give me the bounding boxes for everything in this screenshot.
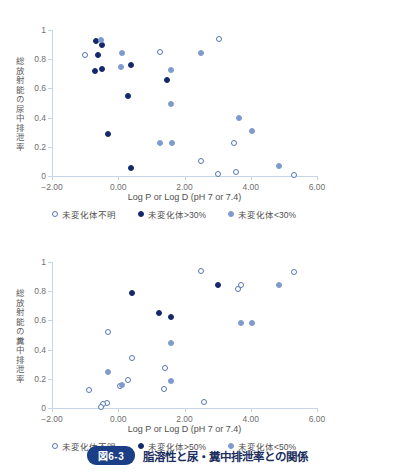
x-tick [118, 408, 119, 412]
data-point [156, 310, 162, 316]
x-tick-label: −2.00 [41, 414, 63, 424]
data-point [168, 340, 174, 346]
y-tick-label: 0.6 [34, 83, 46, 93]
data-point [129, 355, 135, 361]
x-tick [251, 176, 252, 180]
data-point [92, 68, 98, 74]
data-point [249, 320, 255, 326]
y-tick-label: 0 [41, 403, 46, 413]
data-point [125, 93, 131, 99]
y-tick [48, 350, 52, 351]
x-axis-title-feces: Log P or Log D (pH 7 or 7.4) [52, 424, 317, 434]
data-point [82, 52, 88, 58]
scatter-panel-feces: 総放射能の糞中排泄率 00.20.40.60.81−2.000.002.004.… [0, 232, 395, 460]
x-tick-label: 2.00 [176, 182, 193, 192]
legend-marker-unknown-icon [52, 211, 58, 217]
data-point [161, 386, 167, 392]
x-tick-label: −2.00 [41, 182, 63, 192]
data-point [201, 399, 207, 405]
y-tick-label: 0.2 [34, 374, 46, 384]
data-point [164, 77, 170, 83]
data-point [276, 282, 282, 288]
figure-number-badge: 図6-3 [87, 446, 135, 465]
x-tick [317, 176, 318, 180]
data-point [99, 66, 105, 72]
data-point [249, 128, 255, 134]
y-tick-label: 0.4 [34, 113, 46, 123]
x-tick-label: 0.00 [110, 182, 127, 192]
data-point [198, 50, 204, 56]
x-tick [317, 408, 318, 412]
x-tick [185, 176, 186, 180]
y-tick [48, 30, 52, 31]
y-axis-line [52, 262, 53, 408]
legend-marker-low-icon [228, 211, 234, 217]
data-point [198, 268, 204, 274]
legend-label: 未変化体不明 [62, 208, 116, 220]
legend-item-unknown: 未変化体不明 [52, 208, 116, 220]
y-tick [48, 88, 52, 89]
y-tick [48, 59, 52, 60]
x-tick [118, 176, 119, 180]
data-point [216, 36, 222, 42]
figure-6-3: 総放射能の尿中排泄率 00.20.40.60.81−2.000.002.004.… [0, 0, 395, 475]
x-tick-label: 4.00 [242, 414, 259, 424]
data-point [168, 378, 174, 384]
data-point [105, 329, 111, 335]
data-point [291, 269, 297, 275]
data-point [98, 404, 104, 410]
y-axis-line [52, 30, 53, 176]
y-tick-label: 0.6 [34, 315, 46, 325]
legend-urine: 未変化体不明未変化体>30%未変化体<30% [52, 208, 382, 220]
x-tick-label: 6.00 [309, 182, 326, 192]
data-point [128, 165, 134, 171]
plot-area-feces: 00.20.40.60.81−2.000.002.004.006.00 [52, 262, 317, 408]
legend-label: 未変化体<30% [238, 208, 296, 220]
data-point [157, 49, 163, 55]
x-tick [52, 408, 53, 412]
data-point [129, 290, 135, 296]
data-point [125, 377, 131, 383]
y-tick-label: 0.4 [34, 345, 46, 355]
data-point [105, 131, 111, 137]
x-tick-label: 2.00 [176, 414, 193, 424]
y-tick-label: 0.2 [34, 142, 46, 152]
y-axis-title-feces: 総放射能の糞中排泄率 [10, 264, 28, 409]
y-tick-label: 0 [41, 171, 46, 181]
y-tick-label: 1 [41, 25, 46, 35]
legend-item-low: 未変化体<30% [228, 208, 296, 220]
y-tick [48, 320, 52, 321]
x-tick [52, 176, 53, 180]
legend-item-high: 未変化体>30% [138, 208, 206, 220]
data-point [162, 365, 168, 371]
x-axis-title-urine: Log P or Log D (pH 7 or 7.4) [52, 192, 317, 202]
y-axis-title-urine: 総放射能の尿中排泄率 [10, 32, 28, 177]
data-point [231, 140, 237, 146]
y-tick-label: 0.8 [34, 286, 46, 296]
data-point [233, 169, 239, 175]
data-point [238, 282, 244, 288]
figure-caption: 図6-3 脂溶性と尿・糞中排泄率との関係 [0, 446, 395, 465]
data-point [169, 140, 175, 146]
y-tick-label: 0.8 [34, 54, 46, 64]
legend-label: 未変化体>30% [148, 208, 206, 220]
plot-area-urine: 00.20.40.60.81−2.000.002.004.006.00 [52, 30, 317, 176]
x-tick-label: 4.00 [242, 182, 259, 192]
y-tick [48, 118, 52, 119]
y-tick [48, 291, 52, 292]
data-point [118, 64, 124, 70]
data-point [119, 50, 125, 56]
scatter-panel-urine: 総放射能の尿中排泄率 00.20.40.60.81−2.000.002.004.… [0, 0, 395, 228]
y-tick-label: 1 [41, 257, 46, 267]
data-point [291, 172, 297, 178]
y-tick [48, 379, 52, 380]
y-tick [48, 262, 52, 263]
y-tick [48, 147, 52, 148]
data-point [236, 115, 242, 121]
x-tick [251, 408, 252, 412]
data-point [168, 314, 174, 320]
legend-marker-high-icon [138, 211, 144, 217]
data-point [238, 320, 244, 326]
data-point [168, 101, 174, 107]
figure-caption-text: 脂溶性と尿・糞中排泄率との関係 [143, 448, 308, 464]
